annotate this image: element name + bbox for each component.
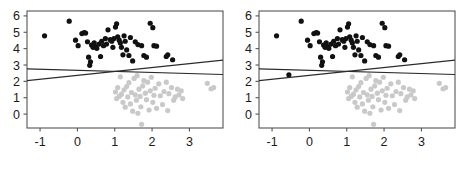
data-point [397,108,402,113]
data-point [352,52,357,57]
data-point [370,104,375,109]
data-point [161,89,166,94]
y-tick-label: 5 [13,26,20,40]
data-point [342,45,347,50]
data-point [160,102,165,107]
data-point [151,93,156,98]
data-point [126,80,131,85]
data-point [103,36,108,41]
y-tick-label: 6 [245,9,252,23]
data-point [113,89,118,94]
data-point [139,122,144,127]
data-point [360,101,365,106]
y-tick-label: 5 [245,26,252,40]
data-point [143,91,148,96]
data-point [152,86,157,91]
data-point [317,39,322,44]
y-axis: 0123456 [245,9,259,121]
y-tick-label: 3 [13,59,20,73]
data-point [320,59,325,64]
scatter-svg-left: 0123456-10123 [0,0,232,170]
data-point [135,111,140,116]
data-point [346,21,351,26]
y-tick-label: 2 [13,75,20,89]
data-point [158,93,163,98]
y-tick-label: 0 [13,108,20,122]
data-point [124,47,129,52]
x-tick-label: 3 [418,135,425,149]
scatter-panel-right: 0123456-10123 [232,0,464,170]
x-tick-label: 0 [74,135,81,149]
data-point [443,85,448,90]
data-point [347,85,352,90]
y-tick-label: 6 [13,9,20,23]
data-point [166,91,171,96]
data-point [211,85,216,90]
data-point [165,52,170,57]
data-point [140,83,145,88]
data-point [114,21,119,26]
data-point [351,45,356,50]
data-point [362,58,367,63]
data-point [335,36,340,41]
data-point [336,41,341,46]
data-point [156,81,161,86]
data-point [382,100,387,105]
data-point [367,73,372,78]
data-point [130,109,135,114]
x-tick-label: -1 [267,135,278,149]
data-point [73,38,78,43]
data-point [371,43,376,48]
data-point [350,74,355,79]
data-point [165,108,170,113]
data-point [120,100,125,105]
data-point [88,59,93,64]
y-tick-label: 4 [13,42,20,56]
data-point [83,30,88,35]
scatter-plot-figure: 0123456-10123 0123456-10123 [0,0,465,170]
data-point [149,75,154,80]
x-tick-label: 1 [343,135,350,149]
data-point [169,85,174,90]
y-tick-label: 3 [245,59,252,73]
data-point [367,111,372,116]
data-point [381,75,386,80]
y-tick-label: 0 [245,108,252,122]
data-point [388,81,393,86]
data-point [126,53,131,58]
data-point [357,94,362,99]
data-point [376,55,381,60]
data-point [308,43,313,48]
data-point [110,45,115,50]
data-point [118,74,123,79]
data-point [372,83,377,88]
data-point [125,94,130,99]
data-point [76,43,81,48]
data-point [144,55,149,60]
data-point [154,106,159,111]
data-point [148,21,153,26]
data-point [350,40,355,45]
data-point [412,96,417,101]
data-point [135,73,140,78]
data-point [390,93,395,98]
y-tick-label: 2 [245,75,252,89]
x-tick-label: 2 [381,135,388,149]
y-tick-label: 1 [13,91,20,105]
data-point [299,19,304,24]
data-point [180,96,185,101]
data-point [179,88,184,93]
data-point [370,94,375,99]
y-tick-label: 4 [245,42,252,56]
data-point [352,100,357,105]
data-point [401,85,406,90]
data-point [437,81,442,86]
data-point [148,88,153,93]
scatter-svg-right: 0123456-10123 [232,0,464,170]
data-point [360,35,365,40]
data-point [392,102,397,107]
data-point [376,97,381,102]
data-point [150,100,155,105]
data-point [138,104,143,109]
data-point [397,52,402,57]
